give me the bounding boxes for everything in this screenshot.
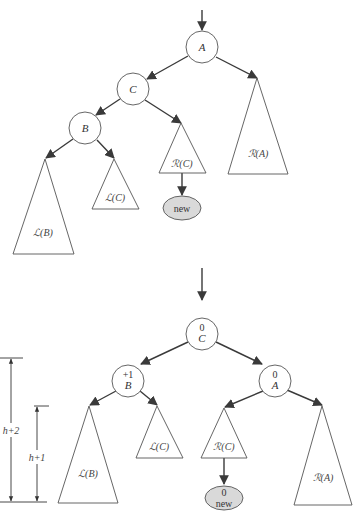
avl-rotation-diagram: A C B ℛ(A) ℛ(C) ℒ(C) ℒ(B) n [0, 0, 356, 513]
subtree-LC: ℒ(C) [92, 159, 139, 209]
balance-factor: 0 [222, 487, 227, 498]
top-tree: A C B ℛ(A) ℛ(C) ℒ(C) ℒ(B) n [13, 10, 288, 254]
subtree-RA: ℛ(A) [294, 406, 352, 505]
node-B: +1 B [112, 365, 144, 397]
subtree-label: ℛ(A) [248, 148, 269, 160]
node-B: B [69, 112, 101, 144]
subtree-label: ℒ(B) [33, 227, 53, 239]
node-label: B [82, 122, 89, 134]
subtree-label: ℛ(A) [313, 472, 334, 484]
edge-A-C [147, 56, 188, 79]
node-C: 0 C [186, 318, 218, 350]
edge-B-LB [90, 391, 116, 405]
node-A: A [186, 31, 218, 63]
height-label-outer: h+2 [3, 425, 20, 436]
node-label: B [125, 379, 132, 391]
node-label: A [198, 41, 206, 53]
height-bracket-outer: h+2 [0, 358, 47, 502]
subtree-RC: ℛ(C) [159, 123, 206, 173]
node-label: C [198, 332, 206, 344]
subtree-LB: ℒ(B) [13, 159, 74, 254]
node-new: 0 new [205, 486, 243, 510]
edge-A-RA [216, 57, 257, 78]
node-A: 0 A [259, 365, 291, 397]
bottom-tree: 0 C +1 B 0 A ℒ(B) ℒ(C) ℛ(C) ℛ(A) [0, 318, 352, 510]
subtree-label: ℒ(B) [78, 468, 98, 480]
node-label: new [216, 498, 233, 509]
edge-A-RC [225, 391, 263, 407]
subtree-label: ℛ(C) [213, 441, 235, 453]
node-label: new [174, 203, 191, 214]
subtree-label: ℛ(C) [171, 158, 193, 170]
subtree-label: ℒ(C) [149, 441, 170, 453]
subtree-RC: ℛ(C) [201, 408, 247, 458]
height-label-inner: h+1 [29, 452, 46, 463]
subtree-LB: ℒ(B) [58, 406, 118, 503]
edge-C-B [141, 342, 188, 364]
edge-C-B [96, 99, 120, 115]
edge-C-RC [145, 100, 181, 123]
node-C: C [117, 73, 149, 105]
subtree-label: ℒ(C) [105, 192, 126, 204]
edge-C-A [216, 342, 262, 364]
edge-A-RA [287, 390, 322, 405]
node-label: A [271, 379, 279, 391]
edge-B-LC [97, 140, 114, 158]
node-label: C [129, 83, 137, 95]
height-bracket-inner: h+1 [28, 406, 49, 501]
subtree-LC: ℒ(C) [136, 406, 183, 458]
edge-B-LB [46, 139, 73, 158]
node-new: new [163, 196, 201, 220]
edge-B-LC [140, 391, 157, 405]
subtree-RA: ℛ(A) [228, 78, 288, 174]
